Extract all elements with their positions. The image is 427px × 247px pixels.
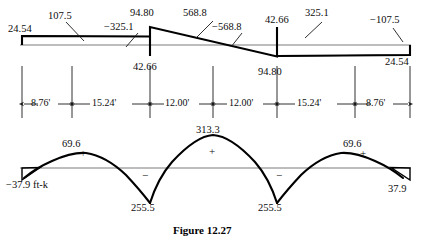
moment-label-313-3: 313.3 [196, 125, 220, 136]
shear-label-94-80-top: 94.80 [130, 8, 154, 19]
moment-label-69-6-left: 69.6 [62, 139, 80, 150]
moment-curve-right [277, 153, 403, 203]
moment-curve-left [24, 153, 150, 203]
shear-label-42-66-left: 42.66 [133, 62, 157, 73]
sign-plus-right: + [360, 148, 366, 159]
sign-minus-right: − [276, 170, 282, 181]
moment-label-69-6-right: 69.6 [343, 139, 361, 150]
shear-label-24-54-left: 24.54 [8, 24, 32, 35]
dimension-label-0: 8.76' [31, 98, 50, 108]
moment-label-255-5-left: 255.5 [131, 203, 155, 214]
sign-minus-left: − [142, 170, 148, 181]
moment-label-255-5-right: 255.5 [258, 203, 282, 214]
dimension-chain [22, 66, 410, 118]
moment-label-37-9: 37.9 [388, 184, 406, 195]
figure-caption: Figure 12.27 [173, 224, 231, 236]
moment-label-neg-37-9: −37.9 ft-k [6, 180, 48, 191]
dimension-label-2: 12.00' [165, 98, 189, 108]
leader-107-5 [66, 22, 84, 41]
shear-label-42-66-right: 42.66 [265, 15, 289, 26]
shear-label-568-8: 568.8 [183, 8, 207, 19]
leader-325-1-right [305, 22, 322, 38]
leader-neg-107-5 [393, 28, 403, 42]
figure-12-27: 24.54 107.5 −325.1 42.66 94.80 568.8 −56… [0, 0, 427, 247]
shear-label-neg-325-1: −325.1 [104, 22, 134, 33]
dimension-label-1: 15.24' [92, 98, 116, 108]
dimension-label-4: 15.24' [297, 98, 321, 108]
dimension-label-3: 12.00' [229, 98, 253, 108]
shear-label-neg-568-8: −568.8 [212, 22, 242, 33]
moment-end-wedge-right [391, 168, 410, 180]
shear-edge-left [22, 36, 150, 37]
dimension-label-5: 8.76' [366, 98, 385, 108]
sign-plus-left: + [80, 148, 86, 159]
shear-label-neg-107-5: −107.5 [370, 15, 400, 26]
shear-label-94-80-bottom: 94.80 [258, 67, 282, 78]
shear-label-107-5: 107.5 [48, 11, 72, 22]
shear-label-325-1: 325.1 [305, 8, 329, 19]
sign-plus-center: + [209, 146, 215, 157]
leader-568-8 [196, 21, 213, 38]
shear-label-24-54-right: 24.54 [385, 57, 409, 68]
